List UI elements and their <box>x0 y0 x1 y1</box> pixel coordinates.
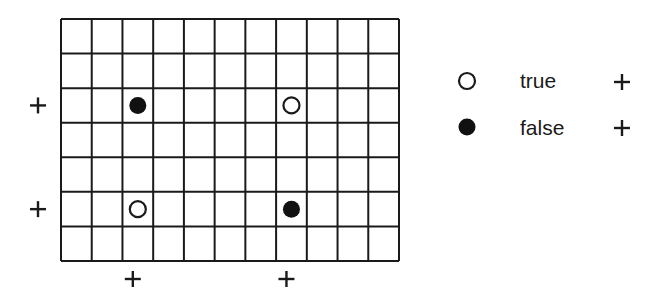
open-circle-icon <box>283 97 299 113</box>
plus-icon <box>30 97 46 113</box>
grid <box>61 19 399 261</box>
plus-icon <box>30 201 46 217</box>
plus-icon <box>614 120 630 136</box>
plus-icon <box>614 74 630 90</box>
open-circle-icon <box>459 73 475 89</box>
grid-diagram: true false <box>0 0 668 298</box>
plus-icon <box>278 271 294 287</box>
open-circle-icon <box>130 201 146 217</box>
filled-circle-icon <box>459 119 476 136</box>
filled-circle-icon <box>283 201 300 218</box>
filled-circle-icon <box>129 97 146 114</box>
legend-item-true: true <box>459 69 630 92</box>
legend-item-false: false <box>459 116 631 139</box>
legend: true false <box>459 69 631 139</box>
legend-label-true: true <box>520 69 556 92</box>
plus-icon <box>125 271 141 287</box>
legend-label-false: false <box>520 116 564 139</box>
